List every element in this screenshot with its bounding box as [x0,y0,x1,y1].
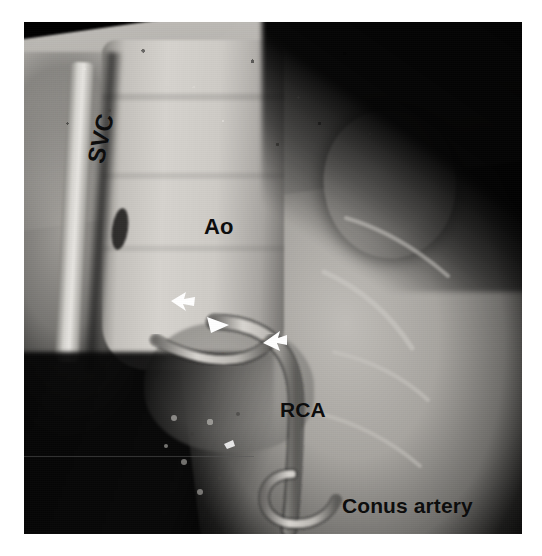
calcific-speck-marker [224,440,236,450]
label-rca: RCA [280,398,326,422]
arrowhead-marker-2 [206,314,230,334]
scanline-seam [24,456,254,457]
label-conus-artery: Conus artery [342,494,473,518]
figure-root: SVC Ao RCA Conus artery [0,0,542,556]
arrowhead-marker-3 [262,330,288,352]
ct-angiography-image[interactable]: SVC Ao RCA Conus artery [24,22,522,534]
label-ao: Ao [204,214,234,240]
background-void-upper-right [262,22,522,292]
background-void-lower-left [24,352,274,534]
arrowhead-marker-1 [170,290,196,312]
